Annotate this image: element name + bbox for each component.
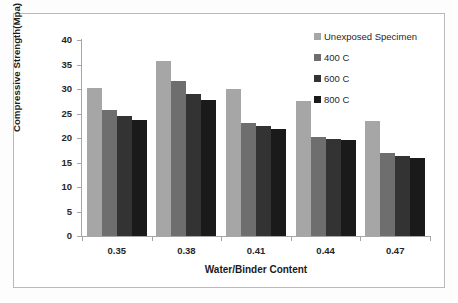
bar-0.41-400-c	[241, 123, 256, 236]
x-axis-line	[81, 236, 431, 237]
bar-0.47-unexposed-specimen	[365, 121, 380, 236]
legend-swatch-icon	[314, 96, 321, 103]
x-tick-mark	[360, 237, 361, 241]
bar-group-0.38	[152, 40, 222, 236]
legend-label: Unexposed Specimen	[324, 31, 417, 42]
y-tick-mark	[77, 65, 81, 66]
bar-0.35-600-c	[117, 116, 132, 236]
chart-legend: Unexposed Specimen400 C600 C800 C	[314, 26, 446, 110]
bar-0.41-800-c	[271, 129, 286, 236]
y-axis-title: Compressive Strength(Mpa)	[11, 0, 22, 148]
y-tick-label: 30	[32, 84, 72, 94]
bar-0.47-600-c	[395, 156, 410, 236]
legend-swatch-icon	[314, 33, 321, 40]
y-tick-label: 15	[32, 158, 72, 168]
x-tick-label-0.35: 0.35	[82, 245, 152, 256]
y-tick-mark	[77, 212, 81, 213]
bar-0.44-600-c	[326, 139, 341, 236]
bar-group-0.41	[221, 40, 291, 236]
bar-0.35-800-c	[132, 120, 147, 236]
bar-0.38-400-c	[171, 81, 186, 236]
y-tick-label: 40	[32, 35, 72, 45]
legend-label: 400 C	[324, 52, 349, 63]
bar-0.41-unexposed-specimen	[226, 89, 241, 236]
legend-label: 800 C	[324, 94, 349, 105]
bar-0.35-400-c	[102, 110, 117, 236]
bar-0.47-400-c	[380, 153, 395, 236]
y-tick-label: 20	[32, 133, 72, 143]
legend-swatch-icon	[314, 54, 321, 61]
bar-0.44-unexposed-specimen	[296, 101, 311, 236]
bar-group-0.35	[82, 40, 152, 236]
bar-0.38-600-c	[186, 94, 201, 236]
x-tick-label-0.38: 0.38	[151, 245, 221, 256]
y-tick-label: 5	[32, 207, 72, 217]
y-tick-label: 25	[32, 109, 72, 119]
bar-0.38-unexposed-specimen	[156, 61, 171, 236]
x-tick-mark	[152, 237, 153, 241]
y-tick-label: 10	[32, 182, 72, 192]
legend-item-600-c[interactable]: 600 C	[314, 68, 446, 89]
legend-swatch-icon	[314, 75, 321, 82]
x-axis-title: Water/Binder Content	[82, 264, 430, 275]
x-tick-mark	[291, 237, 292, 241]
chart-figure: 4035302520151050 0.350.380.410.440.47 Co…	[0, 0, 458, 303]
y-tick-mark	[77, 138, 81, 139]
y-tick-mark	[77, 40, 81, 41]
y-tick-mark	[77, 163, 81, 164]
y-tick-mark	[77, 187, 81, 188]
legend-item-800-c[interactable]: 800 C	[314, 89, 446, 110]
bar-0.41-600-c	[256, 126, 271, 236]
bar-0.44-800-c	[341, 140, 356, 236]
y-tick-mark	[77, 89, 81, 90]
x-tick-label-0.44: 0.44	[291, 245, 361, 256]
bar-0.38-800-c	[201, 100, 216, 236]
legend-label: 600 C	[324, 73, 349, 84]
x-tick-mark	[221, 237, 222, 241]
y-tick-mark	[77, 114, 81, 115]
y-tick-label: 0	[32, 231, 72, 241]
legend-item-400-c[interactable]: 400 C	[314, 47, 446, 68]
x-tick-mark	[430, 237, 431, 241]
y-tick-label: 35	[32, 60, 72, 70]
y-tick-mark	[77, 236, 81, 237]
x-tick-label-0.47: 0.47	[360, 245, 430, 256]
legend-item-unexposed-specimen[interactable]: Unexposed Specimen	[314, 26, 446, 47]
x-tick-label-0.41: 0.41	[221, 245, 291, 256]
bar-0.47-800-c	[410, 158, 425, 236]
bar-0.35-unexposed-specimen	[87, 88, 102, 236]
x-tick-mark	[82, 237, 83, 241]
bar-0.44-400-c	[311, 137, 326, 236]
